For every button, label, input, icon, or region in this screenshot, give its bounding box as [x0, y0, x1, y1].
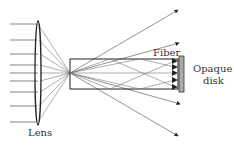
converging-rays [38, 24, 70, 122]
opaque-disk-label-line2: disk [203, 75, 225, 86]
fiber-end-arrows [172, 58, 178, 90]
opaque-disk [179, 56, 184, 92]
opaque-disk-label-line1: Opaque [193, 63, 232, 74]
fiber-label: Fiber [153, 47, 180, 58]
incoming-rays [10, 24, 38, 122]
lens-label: Lens [28, 127, 52, 138]
optics-diagram: Lens Fiber Opaque disk [0, 0, 234, 146]
